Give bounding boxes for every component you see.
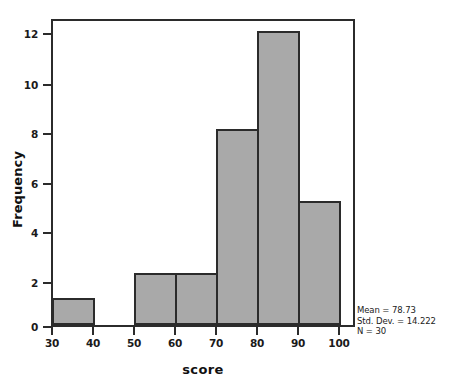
histogram-bar: [216, 129, 259, 325]
histogram-bar: [52, 298, 95, 325]
histogram-bar: [257, 31, 300, 325]
stats-annotation: Mean = 78.73 Std. Dev. = 14.222 N = 30: [357, 305, 436, 337]
y-tick-label: 6: [31, 178, 38, 190]
y-tick-mark: [43, 33, 51, 35]
x-tick-mark: [174, 327, 176, 335]
x-tick-mark: [215, 327, 217, 335]
x-axis-title: score: [51, 362, 355, 377]
x-tick-label: 70: [209, 337, 223, 349]
y-tick-label: 12: [24, 28, 38, 40]
histogram-figure: 12 10 8 6 4 2 0 Frequency: [0, 0, 455, 390]
y-axis-title: Frequency: [6, 134, 28, 244]
x-tick-mark: [338, 327, 340, 335]
x-tick-label: 80: [250, 337, 264, 349]
x-tick-label: 100: [328, 337, 349, 349]
x-tick-label: 30: [45, 337, 59, 349]
x-tick-label: 60: [168, 337, 182, 349]
x-tick-mark: [92, 327, 94, 335]
y-axis-title-text: Frequency: [10, 151, 25, 228]
y-tick-mark: [43, 183, 51, 185]
y-tick-label: 8: [31, 128, 38, 140]
stats-n: N = 30: [357, 326, 436, 337]
x-tick-label: 50: [127, 337, 141, 349]
x-tick-mark: [297, 327, 299, 335]
x-tick-label: 90: [291, 337, 305, 349]
y-tick-label: 4: [31, 227, 38, 239]
histogram-bar: [134, 273, 177, 325]
y-tick-label: 2: [31, 277, 38, 289]
x-tick-mark: [256, 327, 258, 335]
stats-stddev: Std. Dev. = 14.222: [357, 316, 436, 327]
histogram-bar: [175, 273, 218, 325]
x-tick-label: 40: [86, 337, 100, 349]
bars-layer: [53, 21, 353, 325]
y-tick-mark: [43, 133, 51, 135]
x-tick-mark: [51, 327, 53, 335]
x-tick-mark: [133, 327, 135, 335]
plot-area: [51, 19, 355, 327]
y-tick-mark: [43, 282, 51, 284]
histogram-bar: [298, 201, 341, 325]
y-tick-label: 10: [24, 79, 38, 91]
y-tick-mark: [43, 84, 51, 86]
stats-mean: Mean = 78.73: [357, 305, 436, 316]
x-axis-title-text: score: [182, 362, 224, 377]
y-tick-mark: [43, 232, 51, 234]
